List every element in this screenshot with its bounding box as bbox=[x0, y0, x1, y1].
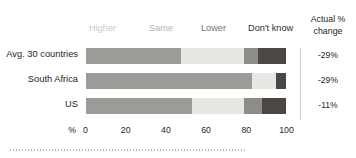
x-axis-tick: 100 bbox=[272, 124, 302, 136]
bar-segment-same bbox=[181, 48, 244, 64]
chart-rows: Avg. 30 countries-29%South Africa-29%US-… bbox=[0, 46, 356, 121]
bar-segment-higher bbox=[86, 98, 193, 114]
actual-change-value: -11% bbox=[305, 100, 351, 111]
x-axis-tick: 20 bbox=[111, 124, 141, 136]
actual-change-header-line2: change bbox=[303, 26, 353, 38]
x-axis-tick: 80 bbox=[231, 124, 261, 136]
bar-segment-don-t-know bbox=[258, 48, 286, 64]
x-axis: % 020406080100 bbox=[0, 124, 356, 138]
x-axis-tick: 60 bbox=[191, 124, 221, 136]
bar-segment-lower bbox=[244, 98, 262, 114]
x-axis-tick: 40 bbox=[151, 124, 181, 136]
stacked-bar-chart: Higher Same Lower Don't know Actual % ch… bbox=[0, 0, 356, 158]
stacked-bar bbox=[86, 98, 287, 114]
legend-item-higher: Higher bbox=[89, 22, 116, 34]
chart-row: US-11% bbox=[0, 96, 356, 121]
chart-legend: Higher Same Lower Don't know bbox=[85, 22, 287, 36]
chart-row-label: Avg. 30 countries bbox=[0, 49, 78, 60]
legend-item-same: Same bbox=[149, 22, 173, 34]
chart-row-label: South Africa bbox=[0, 74, 78, 85]
actual-change-column-header: Actual % change bbox=[303, 14, 353, 37]
page-perforation-line bbox=[10, 149, 246, 151]
bar-segment-higher bbox=[86, 48, 181, 64]
actual-change-value: -29% bbox=[305, 75, 351, 86]
chart-row: Avg. 30 countries-29% bbox=[0, 46, 356, 71]
legend-item-dont-know: Don't know bbox=[248, 22, 293, 34]
actual-change-header-line1: Actual % bbox=[303, 14, 353, 26]
bar-segment-same bbox=[252, 73, 276, 89]
chart-row-label: US bbox=[0, 99, 78, 110]
legend-item-lower: Lower bbox=[201, 22, 226, 34]
stacked-bar bbox=[86, 73, 287, 89]
x-axis-tick: 0 bbox=[71, 124, 101, 136]
bar-segment-lower bbox=[244, 48, 258, 64]
bar-segment-higher bbox=[86, 73, 253, 89]
actual-change-value: -29% bbox=[305, 50, 351, 61]
stacked-bar bbox=[86, 48, 287, 64]
bar-segment-same bbox=[192, 98, 244, 114]
chart-row: South Africa-29% bbox=[0, 71, 356, 96]
bar-segment-don-t-know bbox=[262, 98, 286, 114]
bar-segment-don-t-know bbox=[276, 73, 286, 89]
